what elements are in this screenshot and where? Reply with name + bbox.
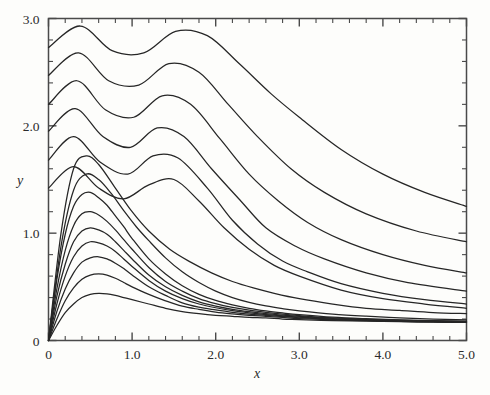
x-tick-label: 5.0 [458,347,475,362]
x-tick-label: 4.0 [374,347,391,362]
y-tick-label: 2.0 [23,119,40,134]
figure-background [0,0,490,395]
y-tick-label: 3.0 [23,12,40,27]
y-tick-label: 1.0 [23,226,40,241]
x-axis-title: x [253,366,261,381]
x-tick-label: 2.0 [207,347,224,362]
plot-figure: 01.02.03.04.05.001.02.03.0 x y [0,0,490,395]
y-axis-title: y [15,173,24,188]
figure-container: 01.02.03.04.05.001.02.03.0 x y [0,0,490,395]
x-tick-label: 1.0 [124,347,141,362]
x-tick-label: 3.0 [291,347,308,362]
x-tick-label: 0 [45,347,52,362]
y-tick-label: 0 [33,334,40,349]
